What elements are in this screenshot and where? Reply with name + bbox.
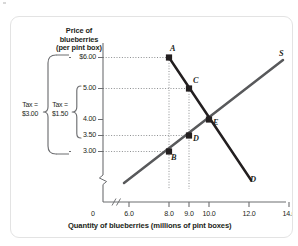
x-tick-label-14: 14.0: [275, 210, 293, 218]
point-label-a: A: [170, 44, 175, 54]
y-axis-title-line2: blueberries: [60, 35, 99, 44]
y-tick-label-350: 3.50: [59, 131, 96, 139]
y-tick-marks: [98, 58, 103, 152]
tax-outer-line2: $3.00: [22, 110, 38, 117]
point-label-b: B: [171, 153, 176, 163]
x-tick-marks: [129, 202, 289, 207]
point-label-c: C: [193, 76, 198, 86]
y-tick-label-300: 3.00: [51, 147, 96, 155]
point-a-marker: [166, 54, 172, 60]
supply-curve: [124, 60, 283, 183]
tax-outer-line1: Tax =: [22, 101, 38, 108]
origin-label: 0: [91, 210, 95, 218]
y-axis-title-line3: (per pint box): [56, 43, 102, 52]
demand-curve-label: D: [250, 175, 256, 185]
tax-inner-line1: Tax =: [52, 101, 68, 108]
tax-inner-line2: $1.50: [52, 110, 68, 117]
point-label-e: E: [213, 118, 218, 128]
supply-curve-label: S: [279, 49, 284, 59]
guide-lines: [103, 58, 189, 190]
point-e-marker: [206, 116, 212, 122]
y-axis-title: Price of blueberries (per pint box): [39, 27, 119, 53]
chart-figure: Price of blueberries (per pint box) $6.0…: [0, 0, 298, 246]
axes: [99, 43, 286, 202]
y-axis-title-line1: Price of: [66, 26, 92, 35]
x-tick-label-12: 12.0: [235, 210, 263, 218]
y-axis-break: [99, 175, 106, 185]
data-points: [166, 54, 212, 154]
y-tick-label-500: 5.00: [59, 84, 96, 92]
x-axis-title: Quantity of blueberries (millions of pin…: [68, 222, 232, 231]
x-tick-label-10: 10.0: [195, 210, 223, 218]
figure-card: Price of blueberries (per pint box) $6.0…: [10, 16, 293, 238]
y-tick-label-600: $6.00: [51, 53, 96, 61]
point-c-marker: [186, 85, 192, 91]
page-speck: [3, 2, 6, 4]
point-d-marker: [186, 132, 192, 138]
tax-label-inner: Tax = $1.50: [43, 101, 77, 118]
point-label-d: D: [193, 134, 199, 144]
x-tick-label-6: 6.0: [115, 210, 143, 218]
